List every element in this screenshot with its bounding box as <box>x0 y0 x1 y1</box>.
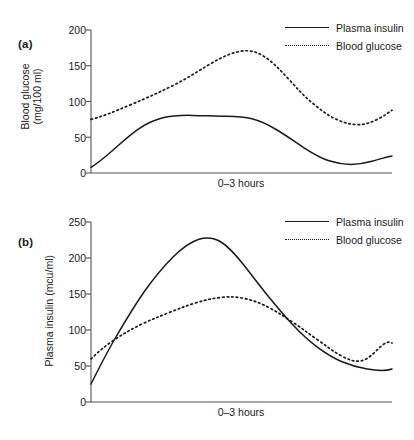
panel-b-legend-label-blood-glucose: Blood glucose <box>336 234 402 246</box>
panel-b-x-axis-label: 0–3 hours <box>186 406 296 418</box>
dotted-line-key-icon <box>285 41 329 51</box>
dotted-line-key-icon <box>285 235 329 245</box>
panel-a-curve-plasma-insulin <box>91 115 392 167</box>
panel-a: (a) Blood glucose (mg/100 ml) 200 150 10… <box>0 0 414 200</box>
panel-b: (b) Plasma insulin (mcu/ml) 250 200 150 … <box>0 200 414 440</box>
panel-b-legend-label-plasma-insulin: Plasma insulin <box>336 216 404 228</box>
panel-a-legend-item-blood-glucose: Blood glucose <box>285 38 404 54</box>
panel-a-legend-item-plasma-insulin: Plasma insulin <box>285 20 404 36</box>
solid-line-key-icon <box>285 23 329 33</box>
panel-a-legend-label-plasma-insulin: Plasma insulin <box>336 22 404 34</box>
solid-line-key-icon <box>285 217 329 227</box>
panel-a-curve-blood-glucose <box>91 51 392 125</box>
figure-two-panel-chart: (a) Blood glucose (mg/100 ml) 200 150 10… <box>0 0 414 440</box>
panel-b-curve-plasma-insulin <box>91 238 392 384</box>
panel-b-legend: Plasma insulin Blood glucose <box>285 214 404 250</box>
panel-b-legend-item-blood-glucose: Blood glucose <box>285 232 404 248</box>
panel-b-legend-item-plasma-insulin: Plasma insulin <box>285 214 404 230</box>
panel-a-legend-label-blood-glucose: Blood glucose <box>336 40 402 52</box>
panel-b-curve-blood-glucose <box>91 297 392 361</box>
panel-a-legend: Plasma insulin Blood glucose <box>285 20 404 56</box>
panel-a-x-axis-label: 0–3 hours <box>186 177 296 189</box>
